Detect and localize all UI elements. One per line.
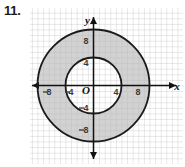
y-tick-label-pos8: 8 xyxy=(83,36,88,46)
x-axis-label: x xyxy=(173,80,180,92)
origin-label: O xyxy=(82,84,90,96)
y-tick-label-pos4: 4 xyxy=(83,58,88,68)
figure-root: 11. xyxy=(0,0,185,167)
x-tick-label-pos4: 4 xyxy=(113,87,118,97)
y-tick-label-neg8: 8 xyxy=(83,125,88,135)
x-tick-label-pos8: 8 xyxy=(135,87,140,97)
y-axis-label: y xyxy=(83,14,90,26)
coordinate-plane: y x O 8 4 4 8 8 4 4 8 xyxy=(30,8,183,164)
y-tick-label-neg4: 4 xyxy=(83,103,88,113)
problem-number-label: 11. xyxy=(4,4,20,17)
graph-panel: y x O 8 4 4 8 8 4 4 8 xyxy=(30,8,183,164)
